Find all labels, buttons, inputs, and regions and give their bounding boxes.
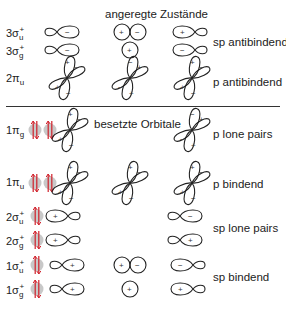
- svg-text:−: −: [135, 261, 140, 270]
- svg-text:+: +: [70, 285, 75, 294]
- svg-text:+: +: [58, 188, 63, 197]
- svg-text:−: −: [191, 194, 196, 203]
- orbital-3sigma-u-right: [173, 26, 207, 38]
- svg-text:+: +: [127, 285, 132, 294]
- svg-text:−: −: [65, 28, 70, 37]
- svg-text:−: −: [190, 110, 195, 119]
- svg-text:+: +: [55, 83, 60, 92]
- svg-text:+: +: [53, 236, 58, 245]
- svg-text:−: −: [74, 63, 79, 72]
- svg-text:+: +: [191, 141, 196, 150]
- svg-text:−: −: [77, 115, 82, 124]
- svg-text:−: −: [137, 168, 142, 177]
- svg-text:+: +: [190, 163, 195, 172]
- svg-text:+: +: [180, 188, 185, 197]
- svg-text:+: +: [137, 63, 142, 72]
- svg-text:+: +: [68, 110, 73, 119]
- svg-text:−: −: [65, 46, 70, 55]
- svg-text:−: −: [135, 28, 140, 37]
- svg-text:+: +: [53, 212, 58, 221]
- svg-text:+: +: [70, 261, 75, 270]
- svg-text:−: −: [199, 168, 204, 177]
- svg-text:−: −: [66, 89, 71, 98]
- svg-text:−: −: [69, 141, 74, 150]
- svg-text:−: −: [178, 261, 183, 270]
- svg-text:+: +: [199, 115, 204, 124]
- svg-text:−: −: [180, 135, 185, 144]
- orbital-3sigma-u-middle: + −: [114, 24, 146, 40]
- svg-text:+: +: [129, 89, 134, 98]
- svg-text:+: +: [68, 163, 73, 172]
- svg-text:−: −: [129, 194, 134, 203]
- svg-text:−: −: [128, 58, 133, 67]
- svg-text:+: +: [178, 285, 183, 294]
- svg-text:+: +: [188, 236, 193, 245]
- svg-text:+: +: [119, 28, 124, 37]
- svg-text:−: −: [199, 63, 204, 72]
- svg-text:−: −: [180, 46, 185, 55]
- svg-text:+: +: [128, 163, 133, 172]
- svg-text:+: +: [58, 135, 63, 144]
- svg-text:−: −: [118, 83, 123, 92]
- svg-text:+: +: [119, 261, 124, 270]
- svg-text:−: −: [77, 168, 82, 177]
- svg-text:+: +: [180, 28, 185, 37]
- orbital-3sigma-u-left: −: [45, 26, 79, 38]
- svg-text:−: −: [188, 212, 193, 221]
- svg-text:+: +: [127, 46, 132, 55]
- svg-text:+: +: [190, 58, 195, 67]
- orbital-drawings: − + − + − + − +−+− −+−+ +−+− +−+− −+−+ +…: [0, 0, 286, 310]
- svg-text:+: +: [118, 188, 123, 197]
- svg-text:+: +: [65, 58, 70, 67]
- svg-text:+: +: [180, 83, 185, 92]
- svg-text:−: −: [191, 89, 196, 98]
- svg-text:−: −: [69, 194, 74, 203]
